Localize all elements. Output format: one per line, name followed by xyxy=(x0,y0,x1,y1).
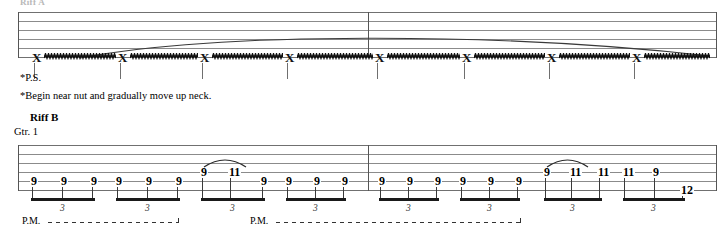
tab-note-stem xyxy=(147,187,148,198)
tab-note-stem xyxy=(545,178,546,198)
palm-mute-dashed-line xyxy=(276,222,520,223)
tab-fret-number: 9 xyxy=(285,175,293,187)
hammer-on-slur xyxy=(202,154,248,172)
tab-fret-number: 9 xyxy=(652,166,660,178)
tab-fret-number: 9 xyxy=(175,175,183,187)
triplet-marker: 3 xyxy=(406,203,411,213)
tab-note-stem xyxy=(92,187,93,198)
pick-scrape-squiggle xyxy=(474,53,545,60)
tab-fret-number: 9 xyxy=(515,175,523,187)
upper-note-stem xyxy=(202,63,203,79)
tab-note-stem xyxy=(461,187,462,198)
pick-scrape-squiggle xyxy=(644,53,710,60)
tab-note-stem xyxy=(262,187,263,198)
palm-mute-dashed-line xyxy=(48,222,178,223)
tab-note-stem xyxy=(489,187,490,198)
pick-scrape-squiggle xyxy=(44,53,116,60)
footnote-ps: *P.S. xyxy=(20,72,41,83)
part-label: Gtr. 1 xyxy=(14,126,38,137)
tab-note-stem xyxy=(62,187,63,198)
tab-fret-number: 9 xyxy=(341,175,349,187)
tab-note-stem xyxy=(380,187,381,198)
tab-fret-number: 9 xyxy=(459,175,467,187)
tab-note-stem xyxy=(32,187,33,198)
tab-note-stem xyxy=(343,187,344,198)
pick-scrape-squiggle xyxy=(212,53,283,60)
pick-scrape-squiggle xyxy=(297,53,373,60)
tab-fret-number: 9 xyxy=(30,175,38,187)
pick-scrape-squiggle xyxy=(130,53,198,60)
tab-note-stem xyxy=(624,178,625,198)
tab-fret-number: 9 xyxy=(434,175,442,187)
upper-note-stem xyxy=(549,63,550,79)
tablature-sheet: Riff A XXXXXXXX *P.S. *Begin near nut an… xyxy=(0,0,717,250)
tab-note-stem xyxy=(571,178,572,198)
triplet-marker: 3 xyxy=(60,203,65,213)
tab-beam xyxy=(31,198,95,201)
lower-staff-left-barline xyxy=(18,145,19,191)
tab-fret-number: 9 xyxy=(90,175,98,187)
tab-fret-number: 9 xyxy=(60,175,68,187)
tab-note-stem xyxy=(654,178,655,198)
tab-fret-number: 9 xyxy=(115,175,123,187)
tab-note-stem xyxy=(517,187,518,198)
tab-fret-number: 9 xyxy=(313,175,321,187)
tab-beam xyxy=(623,198,685,201)
tab-beam xyxy=(286,198,346,201)
tab-beam xyxy=(379,198,439,201)
hammer-on-slur xyxy=(545,154,590,172)
upper-note-stem xyxy=(287,63,288,79)
tab-fret-number: 12 xyxy=(680,184,694,196)
tab-note-stem xyxy=(117,187,118,198)
tab-note-stem xyxy=(230,178,231,198)
tab-note-stem xyxy=(177,187,178,198)
triplet-marker: 3 xyxy=(570,203,575,213)
tab-note-stem xyxy=(287,187,288,198)
top-partial-label: Riff A xyxy=(20,0,45,7)
triplet-marker: 3 xyxy=(487,203,492,213)
upper-note-stem xyxy=(120,63,121,79)
tab-fret-number: 11 xyxy=(622,166,635,178)
triplet-marker: 3 xyxy=(145,203,150,213)
tab-fret-number: 9 xyxy=(487,175,495,187)
tab-beam xyxy=(116,198,180,201)
pick-scrape-squiggle xyxy=(387,53,460,60)
tab-fret-number: 9 xyxy=(378,175,386,187)
lower-staff-mid-barline xyxy=(368,145,369,191)
tab-beam xyxy=(201,198,265,201)
triplet-marker: 3 xyxy=(313,203,318,213)
tab-fret-number: 9 xyxy=(260,175,268,187)
upper-note-stem xyxy=(377,63,378,79)
tab-fret-number: 9 xyxy=(145,175,153,187)
tab-note-stem xyxy=(436,187,437,198)
palm-mute-label: P.M. xyxy=(22,215,40,226)
triplet-marker: 3 xyxy=(651,203,656,213)
tab-note-stem xyxy=(599,178,600,198)
tab-note-stem xyxy=(408,187,409,198)
tab-beam xyxy=(460,198,520,201)
palm-mute-label: P.M. xyxy=(250,215,268,226)
upper-note-stem xyxy=(464,63,465,79)
tab-note-stem xyxy=(315,187,316,198)
pick-scrape-squiggle xyxy=(559,53,630,60)
triplet-marker: 3 xyxy=(230,203,235,213)
footnote-technique: *Begin near nut and gradually move up ne… xyxy=(20,90,211,101)
tab-beam xyxy=(544,198,602,201)
palm-mute-end-tick xyxy=(520,218,521,223)
upper-note-stem xyxy=(634,63,635,79)
palm-mute-end-tick xyxy=(178,218,179,223)
tab-note-stem xyxy=(202,178,203,198)
riff-label: Riff B xyxy=(30,111,58,123)
tab-fret-number: 9 xyxy=(406,175,414,187)
tab-fret-number: 11 xyxy=(597,166,610,178)
